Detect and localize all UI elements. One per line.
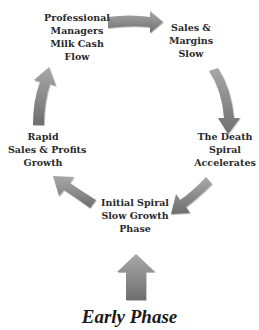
node-professional-managers: Professional Managers Milk Cash Flow [44, 11, 110, 63]
node-line: Rapid [8, 130, 78, 143]
node-initial-spiral: Initial Spiral Slow Growth Phase [98, 196, 172, 235]
node-line: Milk Cash [44, 37, 110, 50]
arrow-down-left-icon [171, 177, 212, 214]
diagram-title: Early Phase [0, 306, 259, 328]
node-line: The Death [194, 130, 256, 143]
node-death-spiral: The Death Spiral Accelerates [194, 130, 256, 169]
node-line: Managers [44, 24, 110, 37]
node-line: Professional [44, 11, 110, 24]
node-line: Slow [168, 47, 214, 60]
node-line: Initial Spiral [98, 196, 172, 209]
arrow-down-curved-icon [209, 68, 240, 134]
node-line: Sales & [168, 21, 214, 34]
cycle-diagram: Professional Managers Milk Cash Flow Sal… [0, 0, 259, 330]
node-line: Accelerates [194, 156, 256, 169]
entry-arrow-up-icon [117, 254, 155, 300]
node-line: Flow [44, 50, 110, 63]
node-line: Margins [168, 34, 214, 47]
node-line: Sales & Profits [8, 143, 78, 156]
arrow-right-icon [108, 11, 163, 33]
arrow-up-left-icon [53, 176, 96, 208]
node-line: Growth [8, 156, 78, 169]
node-line: Slow Growth [98, 209, 172, 222]
node-sales-margins-slow: Sales & Margins Slow [168, 21, 214, 60]
arrow-up-curved-icon [33, 67, 56, 125]
node-rapid-growth: Rapid Sales & Profits Growth [8, 130, 78, 169]
node-line: Spiral [194, 143, 256, 156]
node-line: Phase [98, 222, 172, 235]
